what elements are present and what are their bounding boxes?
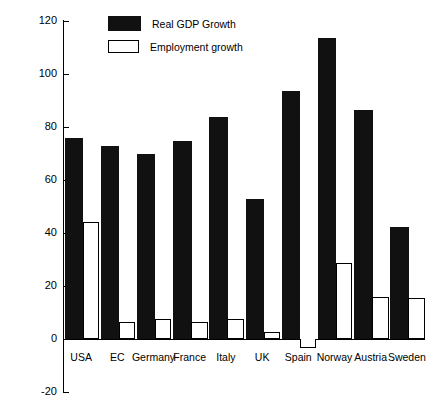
bar-chart: 120100806040200-20 Real GDP Growth Emplo…: [0, 0, 431, 407]
y-tick-label: 80: [27, 121, 57, 132]
y-tick-label: 60: [27, 174, 57, 185]
bar-gdp-growth: [65, 138, 84, 339]
bar-gdp-growth: [282, 91, 301, 339]
plot-area: [63, 15, 425, 339]
bar-gdp-growth: [246, 199, 265, 339]
bar-employment-growth: [408, 298, 425, 339]
bar-employment-growth: [155, 319, 172, 339]
bar-gdp-growth: [173, 141, 192, 339]
y-tick-label: -20: [27, 386, 57, 397]
bar-gdp-growth: [101, 146, 120, 339]
y-tick-label: 100: [27, 68, 57, 79]
bar-employment-growth: [119, 322, 136, 339]
y-tick-label: 40: [27, 227, 57, 238]
bar-gdp-growth: [209, 117, 228, 339]
bar-employment-growth: [191, 322, 208, 339]
y-tick-label: 120: [27, 15, 57, 26]
bar-gdp-growth: [318, 38, 337, 339]
y-tick-label: 20: [27, 280, 57, 291]
y-tick-label: 0: [27, 333, 57, 344]
x-axis-zero-line: [63, 339, 425, 340]
bar-employment-growth: [300, 339, 317, 348]
bar-employment-growth: [83, 222, 100, 339]
bar-employment-growth: [336, 263, 353, 339]
bar-gdp-growth: [137, 154, 156, 339]
bar-employment-growth: [264, 332, 281, 339]
y-tick-mark: [63, 392, 69, 393]
bar-gdp-growth: [354, 110, 373, 339]
bar-employment-growth: [372, 297, 389, 339]
x-axis-label-sweden: Sweden: [385, 352, 429, 363]
bar-employment-growth: [227, 319, 244, 339]
bar-gdp-growth: [390, 227, 409, 339]
y-tick-mark: [63, 339, 69, 340]
